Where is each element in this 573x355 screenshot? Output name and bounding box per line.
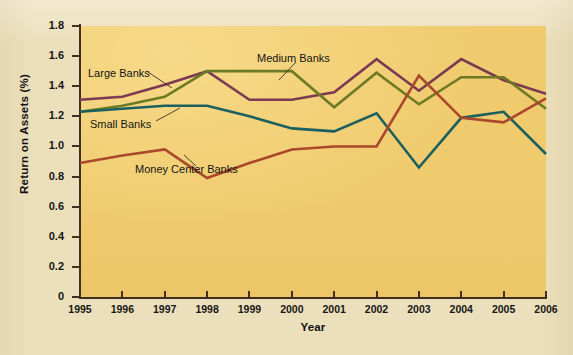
annotation-money-center-banks: Money Center Banks	[135, 163, 238, 175]
annotation-large-banks: Large Banks	[88, 67, 150, 79]
chart-page: Return on Equity return on equity (ROE),…	[0, 0, 573, 355]
series-line-large-banks	[80, 59, 546, 100]
series-line-small-banks	[80, 106, 546, 168]
annotation-small-banks: Small Banks	[90, 118, 151, 130]
leader-small-banks	[156, 108, 180, 121]
annotation-medium-banks: Medium Banks	[257, 52, 330, 64]
